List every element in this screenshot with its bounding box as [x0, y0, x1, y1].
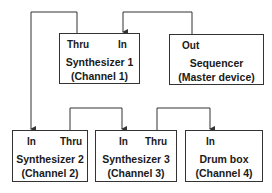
- device-channel: (Master device): [170, 71, 263, 83]
- synthesizer-2-box: In Thru Synthesizer 2 (Channel 2): [12, 130, 88, 182]
- device-channel: (Channel 2): [13, 167, 87, 179]
- device-name: Synthesizer 3: [96, 153, 176, 165]
- in-port-label: In: [206, 136, 215, 147]
- wire-synth3-to-drum: [157, 108, 210, 130]
- device-channel: (Channel 4): [186, 167, 262, 179]
- device-name: Synthesizer 1: [60, 56, 139, 68]
- thru-port-label: Thru: [60, 136, 82, 147]
- device-name: Drum box: [186, 153, 262, 165]
- device-name: Sequencer: [170, 57, 263, 69]
- drum-box-box: In Drum box (Channel 4): [185, 130, 263, 182]
- wire-sequencer-to-synth1: [123, 12, 192, 34]
- in-port-label: In: [119, 136, 128, 147]
- sequencer-box: Out Sequencer (Master device): [169, 34, 264, 85]
- in-port-label: In: [27, 136, 36, 147]
- device-channel: (Channel 1): [60, 70, 139, 82]
- wire-synth2-to-synth3: [70, 108, 122, 130]
- device-name: Synthesizer 2: [13, 153, 87, 165]
- synthesizer-3-box: In Thru Synthesizer 3 (Channel 3): [95, 130, 177, 182]
- synthesizer-1-box: Thru In Synthesizer 1 (Channel 1): [59, 33, 140, 84]
- out-port-label: Out: [182, 40, 199, 51]
- device-channel: (Channel 3): [96, 167, 176, 179]
- thru-port-label: Thru: [145, 136, 167, 147]
- thru-port-label: Thru: [67, 39, 89, 50]
- in-port-label: In: [118, 39, 127, 50]
